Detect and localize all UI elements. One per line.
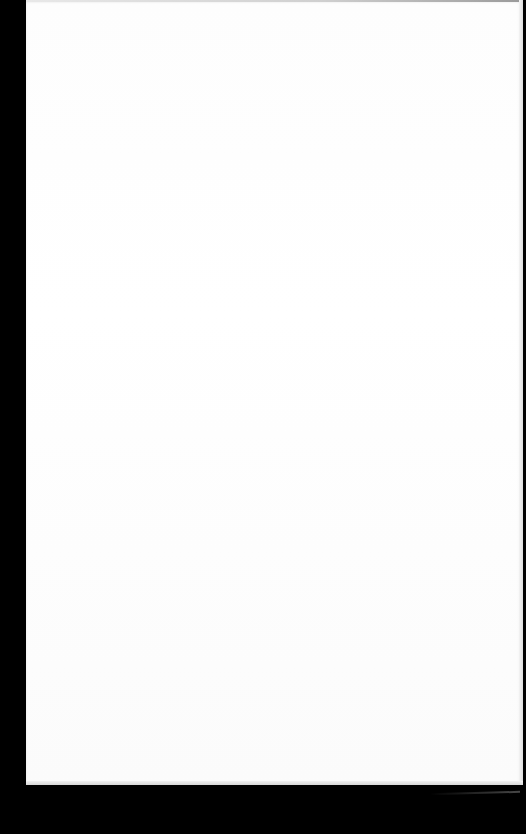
background-reflection	[430, 791, 520, 795]
photo-scene	[0, 0, 526, 834]
paper-bottom-edge	[26, 781, 523, 785]
paper-right-edge	[519, 0, 523, 785]
paper-top-edge	[26, 0, 523, 2]
blank-paper-sheet	[26, 0, 523, 785]
